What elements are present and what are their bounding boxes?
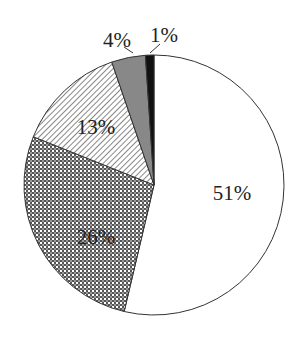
- slice-label-1: 1%: [150, 23, 178, 47]
- slice-label-26: 26%: [77, 225, 116, 249]
- slice-label-51: 51%: [213, 181, 252, 205]
- slice-label-13: 13%: [77, 115, 116, 139]
- slice-label-4: 4%: [103, 28, 131, 52]
- pie-chart: 51%26%13%4%1%: [0, 0, 308, 345]
